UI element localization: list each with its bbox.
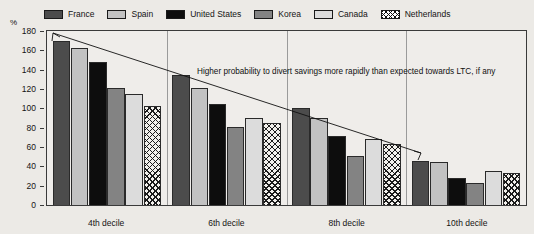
y-axis-tick-mark bbox=[40, 89, 44, 90]
y-axis-tick-mark bbox=[40, 147, 44, 148]
y-axis-unit-label: % bbox=[10, 18, 17, 27]
legend-label-united-states: United States bbox=[190, 10, 241, 19]
y-axis-tick-label: 40 bbox=[27, 161, 36, 171]
y-axis-tick-mark bbox=[40, 205, 44, 206]
y-axis-tick-label: 180 bbox=[22, 26, 36, 36]
bar-spain-1 bbox=[71, 48, 89, 205]
x-axis-tick-labels: 4th decile6th decile8th decile10th decil… bbox=[46, 208, 527, 230]
bar-us-3 bbox=[328, 136, 346, 205]
legend-item-netherlands: Netherlands bbox=[381, 10, 451, 19]
bar-france-3 bbox=[292, 108, 310, 205]
bar-group-4th-decile bbox=[47, 31, 167, 205]
bar-groups bbox=[47, 31, 526, 205]
bar-neth-2 bbox=[263, 123, 281, 205]
bar-spain-3 bbox=[310, 118, 328, 205]
chart-figure: France Spain United States Korea Canada … bbox=[0, 0, 534, 234]
x-axis-tick-label: 8th decile bbox=[287, 208, 407, 230]
y-axis-tick-mark bbox=[40, 108, 44, 109]
bar-korea-2 bbox=[227, 127, 245, 205]
plot-area: Higher probability to divert savings mor… bbox=[46, 30, 527, 206]
x-axis-tick-label: 4th decile bbox=[46, 208, 166, 230]
bar-group-10th-decile bbox=[406, 31, 526, 205]
y-axis-tick-label: 60 bbox=[27, 142, 36, 152]
y-axis-tick-mark bbox=[40, 31, 44, 32]
bar-neth-3 bbox=[383, 144, 401, 205]
legend-item-united-states: United States bbox=[166, 10, 241, 19]
y-axis-tick-label: 0 bbox=[31, 200, 36, 210]
chart-legend: France Spain United States Korea Canada … bbox=[44, 7, 532, 21]
y-axis-tick-label: 120 bbox=[22, 84, 36, 94]
bar-group-8th-decile bbox=[287, 31, 407, 205]
y-axis-tick-mark bbox=[40, 70, 44, 71]
pale-gray-swatch-icon bbox=[314, 10, 333, 19]
light-gray-swatch-icon bbox=[107, 10, 126, 19]
legend-label-canada: Canada bbox=[338, 10, 368, 19]
legend-label-korea: Korea bbox=[278, 10, 301, 19]
crosshatch-swatch-icon bbox=[381, 10, 400, 19]
bar-us-4 bbox=[448, 178, 466, 205]
y-axis-tick-label: 160 bbox=[22, 45, 36, 55]
bar-canada-1 bbox=[125, 94, 143, 205]
y-axis-tick-label: 100 bbox=[22, 103, 36, 113]
bar-france-2 bbox=[172, 75, 190, 205]
bar-korea-1 bbox=[107, 88, 125, 205]
bar-us-1 bbox=[89, 62, 107, 205]
bar-canada-3 bbox=[365, 139, 383, 205]
legend-item-spain: Spain bbox=[107, 10, 153, 19]
bar-korea-4 bbox=[466, 183, 484, 205]
y-axis-tick-label: 20 bbox=[27, 181, 36, 191]
y-axis-tick-label: 140 bbox=[22, 65, 36, 75]
dark-gray-swatch-icon bbox=[44, 10, 63, 19]
bar-korea-3 bbox=[347, 156, 365, 205]
y-axis-tick-labels: 020406080100120140160180 bbox=[0, 30, 44, 206]
bar-spain-4 bbox=[430, 162, 448, 205]
bar-spain-2 bbox=[191, 88, 209, 205]
mid-gray-swatch-icon bbox=[254, 10, 273, 19]
bar-us-2 bbox=[209, 104, 227, 206]
group-separator bbox=[167, 31, 168, 205]
y-axis-tick-mark bbox=[40, 50, 44, 51]
bar-canada-4 bbox=[485, 171, 503, 205]
group-separator bbox=[406, 31, 407, 205]
legend-label-netherlands: Netherlands bbox=[405, 10, 451, 19]
black-swatch-icon bbox=[166, 10, 185, 19]
legend-label-spain: Spain bbox=[131, 10, 153, 19]
group-separator bbox=[287, 31, 288, 205]
legend-item-korea: Korea bbox=[254, 10, 301, 19]
trend-annotation-text: Higher probability to divert savings mor… bbox=[197, 68, 495, 76]
bar-group-6th-decile bbox=[167, 31, 287, 205]
y-axis-tick-mark bbox=[40, 128, 44, 129]
bar-neth-1 bbox=[144, 106, 162, 205]
legend-label-france: France bbox=[68, 10, 94, 19]
bar-france-4 bbox=[412, 161, 430, 205]
legend-item-canada: Canada bbox=[314, 10, 368, 19]
legend-item-france: France bbox=[44, 10, 94, 19]
x-axis-tick-label: 6th decile bbox=[166, 208, 286, 230]
bar-canada-2 bbox=[245, 118, 263, 205]
y-axis-tick-label: 80 bbox=[27, 123, 36, 133]
bar-neth-4 bbox=[503, 173, 521, 205]
x-axis-tick-label: 10th decile bbox=[407, 208, 527, 230]
y-axis-tick-mark bbox=[40, 186, 44, 187]
bar-france-1 bbox=[53, 41, 71, 205]
y-axis-tick-mark bbox=[40, 166, 44, 167]
